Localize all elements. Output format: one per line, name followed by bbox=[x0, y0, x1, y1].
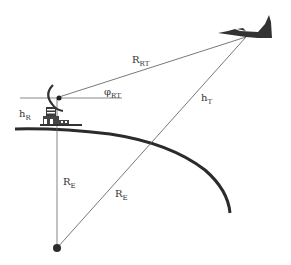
earth-center-dot bbox=[53, 244, 61, 252]
radar-antenna-icon bbox=[40, 85, 82, 126]
range-line bbox=[59, 37, 246, 97]
earth-center-to-target-line bbox=[57, 37, 246, 248]
jet-aircraft-icon bbox=[218, 15, 272, 38]
radar-height-label: hR bbox=[19, 108, 31, 122]
earth-radius-diagonal-label: RE bbox=[115, 188, 128, 202]
target-height-label: hT bbox=[201, 92, 212, 106]
earth-radius-vertical-label: RE bbox=[63, 176, 76, 190]
radar-geometry-diagram: RRT φRT hT hR RE RE bbox=[0, 0, 291, 265]
range-label: RRT bbox=[132, 54, 150, 68]
